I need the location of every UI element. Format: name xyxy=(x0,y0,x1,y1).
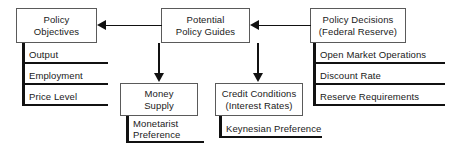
policy-decisions-line1: Policy Decisions xyxy=(323,14,394,26)
instrument-item-open-market-operations-label: Open Market Operations xyxy=(320,49,426,60)
policy-decisions-line2: (Federal Reserve) xyxy=(319,26,397,38)
node-credit-conditions: Credit Conditions (Interest Rates) xyxy=(215,83,303,116)
node-policy-objectives: Policy Objectives xyxy=(16,8,97,43)
objective-item-employment: Employment xyxy=(22,64,108,85)
money-supply-line2: Supply xyxy=(144,100,174,112)
instrument-item-reserve-requirements-rule xyxy=(313,104,445,106)
arrow-guides-to-credit-conditions xyxy=(253,73,263,82)
connector-guides-to-credit-conditions xyxy=(257,43,259,75)
objective-item-price-level-rule xyxy=(22,104,108,106)
potential-policy-guides-line1: Potential xyxy=(187,14,225,26)
arrow-guides-to-money-supply xyxy=(154,73,164,82)
objective-item-employment-label: Employment xyxy=(29,70,83,81)
money-supply-line1: Money xyxy=(144,88,173,100)
objective-item-output-label: Output xyxy=(29,49,58,60)
monetarist-preference-line2: Preference xyxy=(133,129,180,140)
instrument-item-open-market-operations: Open Market Operations xyxy=(313,43,445,64)
connector-decisions-to-guides xyxy=(259,25,311,27)
keynesian-preference-rule xyxy=(219,136,322,138)
objective-items-bracket: Output Employment Price Level xyxy=(22,43,112,106)
keynesian-preference-bracket: Keynesian Preference xyxy=(219,116,324,138)
monetarist-preference-label: Monetarist Preference xyxy=(133,118,180,140)
keynesian-preference-item: Keynesian Preference xyxy=(219,116,322,138)
potential-policy-guides-line2: Policy Guides xyxy=(176,26,235,38)
instrument-item-reserve-requirements-label: Reserve Requirements xyxy=(320,91,419,102)
instrument-item-discount-rate-label: Discount Rate xyxy=(320,70,381,81)
arrow-guides-to-objectives xyxy=(97,20,106,30)
node-money-supply: Money Supply xyxy=(120,83,198,116)
connector-guides-to-objectives xyxy=(106,25,162,27)
instrument-item-discount-rate: Discount Rate xyxy=(313,64,445,85)
credit-conditions-line2: (Interest Rates) xyxy=(225,100,292,112)
keynesian-preference-label: Keynesian Preference xyxy=(226,123,321,134)
instrument-item-reserve-requirements: Reserve Requirements xyxy=(313,85,445,106)
monetarist-preference-bracket: Monetarist Preference xyxy=(126,116,206,143)
monetarist-preference-line1: Monetarist xyxy=(133,118,178,129)
objective-item-output: Output xyxy=(22,43,108,64)
node-potential-policy-guides: Potential Policy Guides xyxy=(161,8,250,43)
policy-objectives-line2: Objectives xyxy=(34,26,79,38)
credit-conditions-line1: Credit Conditions xyxy=(222,88,297,100)
instrument-items-bracket: Open Market Operations Discount Rate Res… xyxy=(313,43,447,106)
objective-item-price-level: Price Level xyxy=(22,85,108,106)
monetarist-preference-item: Monetarist Preference xyxy=(126,116,204,143)
monetarist-preference-rule xyxy=(126,141,204,143)
arrow-decisions-to-guides xyxy=(250,20,259,30)
connector-guides-to-money-supply xyxy=(158,43,160,75)
objective-item-price-level-label: Price Level xyxy=(29,91,77,102)
policy-diagram: Policy Objectives Potential Policy Guide… xyxy=(0,0,451,157)
node-policy-decisions: Policy Decisions (Federal Reserve) xyxy=(310,8,406,43)
policy-objectives-line1: Policy xyxy=(44,14,70,26)
